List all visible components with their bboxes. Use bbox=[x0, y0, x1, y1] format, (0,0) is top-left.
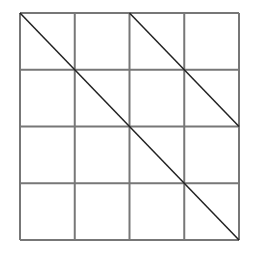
grid-diagram bbox=[0, 0, 256, 255]
